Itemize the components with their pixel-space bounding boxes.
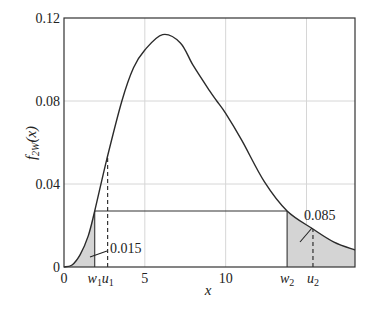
x-axis-label: x xyxy=(204,282,212,298)
annotation-label-left: 0.015 xyxy=(110,241,142,256)
annotation-left: 0.015 xyxy=(90,241,142,257)
y-axis-label: f2W(x) xyxy=(23,126,41,160)
shaded-region-1 xyxy=(64,211,95,267)
chart: 00.040.080.12 0w1u1510w2u2 0.015 0.085 x… xyxy=(0,0,371,309)
y-label-arg: (x) xyxy=(23,126,40,143)
svg-text:f2W(x): f2W(x) xyxy=(23,126,41,160)
y-tick-label: 0.08 xyxy=(36,94,61,109)
x-tick-label: 5 xyxy=(141,271,148,286)
y-tick-label: 0.12 xyxy=(36,11,61,26)
y-tick-label: 0.04 xyxy=(36,177,61,192)
x-tick-label: 10 xyxy=(219,271,233,286)
x-tick-label: u2 xyxy=(307,271,319,288)
x-tick-label: w1 xyxy=(88,271,102,288)
x-tick-label: u1 xyxy=(102,271,114,288)
y-tick-label: 0 xyxy=(53,260,60,275)
x-axis-ticks: 0w1u1510w2u2 xyxy=(61,271,319,288)
annotation-label-right: 0.085 xyxy=(304,208,336,223)
x-tick-label: 0 xyxy=(61,271,68,286)
x-tick-label: w2 xyxy=(280,271,294,288)
